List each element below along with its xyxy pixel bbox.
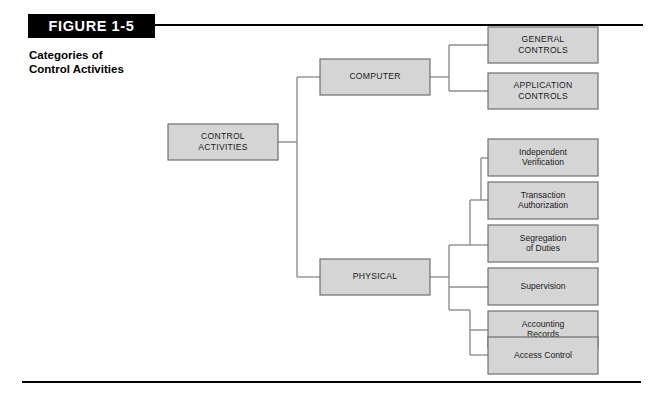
node-label: CONTROLS — [518, 45, 568, 55]
diagram-node-general-controls: GENERALCONTROLS — [488, 27, 598, 63]
diagram-node-access-control: Access Control — [488, 337, 598, 374]
node-label: COMPUTER — [349, 71, 400, 81]
node-layer: CONTROLACTIVITIESCOMPUTERPHYSICALGENERAL… — [168, 27, 598, 374]
node-label: Independent — [519, 147, 567, 157]
node-label: Access Control — [514, 350, 572, 360]
diagram-node-segregation-of-duties: Segregationof Duties — [488, 225, 598, 262]
node-label: ACTIVITIES — [198, 142, 247, 152]
diagram-node-supervision: Supervision — [488, 268, 598, 305]
figure-page: FIGURE 1-5 Categories of Control Activit… — [0, 0, 661, 398]
node-label: Supervision — [521, 281, 566, 291]
node-label: APPLICATION — [514, 80, 573, 90]
control-activities-tree-diagram: CONTROLACTIVITIESCOMPUTERPHYSICALGENERAL… — [0, 0, 661, 398]
node-label: Segregation — [520, 233, 567, 243]
node-label: GENERAL — [522, 34, 565, 44]
node-label: PHYSICAL — [353, 271, 398, 281]
node-label: Accounting — [522, 319, 565, 329]
diagram-node-application-controls: APPLICATIONCONTROLS — [488, 73, 598, 109]
diagram-node-control-activities: CONTROLACTIVITIES — [168, 124, 278, 160]
diagram-node-computer: COMPUTER — [320, 59, 430, 95]
diagram-node-independent-verification: IndependentVerification — [488, 139, 598, 176]
footer-rule — [22, 381, 641, 383]
node-label: of Duties — [526, 243, 560, 253]
node-label: Authorization — [518, 200, 568, 210]
diagram-node-physical: PHYSICAL — [320, 259, 430, 295]
node-label: CONTROL — [201, 131, 245, 141]
node-label: Transaction — [521, 190, 566, 200]
diagram-node-transaction-authorization: TransactionAuthorization — [488, 182, 598, 219]
node-label: Verification — [522, 157, 564, 167]
node-label: CONTROLS — [518, 91, 568, 101]
